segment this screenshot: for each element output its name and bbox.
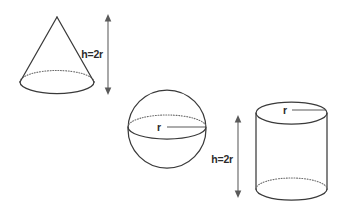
geometry-figure-canvas: h=2r r <box>0 0 351 215</box>
sphere-radius-label: r <box>157 121 161 133</box>
cylinder-shape <box>256 102 327 200</box>
geometry-diagram: h=2r r <box>0 0 351 215</box>
cone-height-arrow-up <box>105 14 112 22</box>
sphere-equator-hidden-arc <box>128 115 206 127</box>
cone-base-hidden-arc <box>20 71 94 83</box>
sphere-equator-front-arc <box>128 127 206 139</box>
cylinder-bottom-hidden-arc <box>256 178 327 189</box>
cylinder-height-arrow-down <box>235 191 242 199</box>
cylinder-bottom-front-arc <box>256 189 327 200</box>
cylinder-top-ellipse <box>256 102 327 124</box>
sphere-outline-circle <box>128 90 206 168</box>
sphere-shape <box>128 90 206 168</box>
cylinder-height-arrow-up <box>235 115 242 123</box>
cone-base-front-arc <box>20 82 94 94</box>
cone-height-label: h=2r <box>81 48 103 60</box>
sphere-radius-callout: r <box>157 121 206 133</box>
cylinder-height-dimension: h=2r <box>211 115 241 198</box>
cylinder-height-label: h=2r <box>211 153 233 165</box>
cone-height-dimension: h=2r <box>81 14 111 95</box>
cylinder-radius-label: r <box>283 104 287 116</box>
cone-height-arrow-down <box>105 88 112 96</box>
cone-left-slant <box>20 17 57 82</box>
